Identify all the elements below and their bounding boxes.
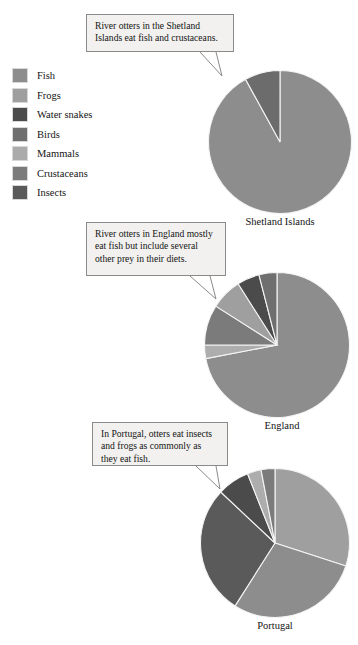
legend-item: Mammals <box>12 144 132 164</box>
england-pie-chart <box>204 272 350 418</box>
legend-swatch <box>12 68 28 83</box>
legend-item-label: Mammals <box>37 147 79 160</box>
legend-item: Frogs <box>12 86 132 106</box>
legend-item: Fish <box>12 66 132 86</box>
legend-swatch <box>12 88 28 103</box>
legend-swatch <box>12 107 28 122</box>
legend-item-label: Fish <box>37 69 55 82</box>
legend-item-label: Crustaceans <box>37 167 88 180</box>
shetland-pie-label: Shetland Islands <box>210 216 350 227</box>
pie-svg <box>204 272 350 418</box>
portugal-pie-label: Portugal <box>225 620 325 631</box>
callout-text: River otters in England mostly eat fish … <box>95 228 218 265</box>
legend-item-label: Water snakes <box>37 108 92 121</box>
pie-svg <box>208 70 352 214</box>
legend-item: Crustaceans <box>12 164 132 184</box>
legend-swatch <box>12 166 28 181</box>
legend-item: Birds <box>12 125 132 145</box>
portugal-callout: In Portugal, otters eat insects and frog… <box>92 422 228 466</box>
pie-svg <box>200 468 350 618</box>
shetland-callout: River otters in the Shetland Islands eat… <box>86 14 234 52</box>
legend-swatch <box>12 146 28 161</box>
infographic-canvas: FishFrogsWater snakesBirdsMammalsCrustac… <box>0 0 358 645</box>
portugal-pie-chart <box>200 468 350 618</box>
callout-text: In Portugal, otters eat insects and frog… <box>101 428 220 465</box>
prey-legend: FishFrogsWater snakesBirdsMammalsCrustac… <box>12 66 132 203</box>
legend-swatch <box>12 127 28 142</box>
england-callout: River otters in England mostly eat fish … <box>86 222 226 276</box>
legend-item-label: Frogs <box>37 89 61 102</box>
england-pie-label: England <box>232 420 332 431</box>
callout-text: River otters in the Shetland Islands eat… <box>95 20 226 45</box>
legend-item: Insects <box>12 183 132 203</box>
legend-item: Water snakes <box>12 105 132 125</box>
legend-item-label: Birds <box>37 128 60 141</box>
legend-item-label: Insects <box>37 186 66 199</box>
legend-swatch <box>12 185 28 200</box>
shetland-pie-chart <box>208 70 352 214</box>
